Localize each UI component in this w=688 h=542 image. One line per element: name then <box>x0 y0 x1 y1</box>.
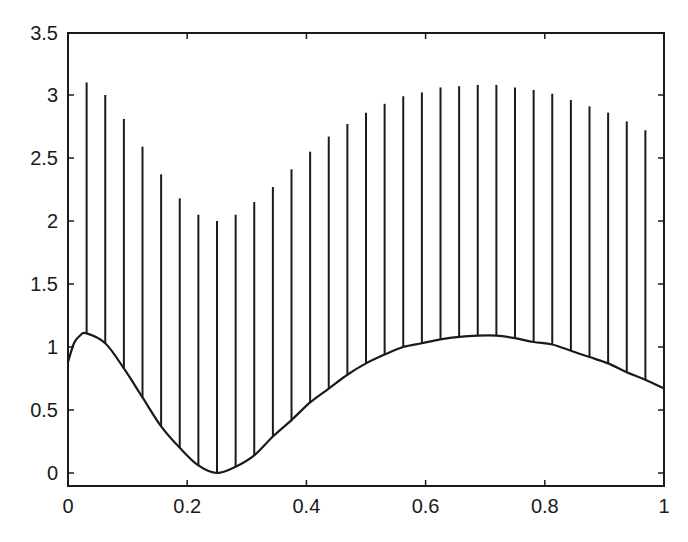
x-tick-label: 0.8 <box>531 495 559 517</box>
x-tick-label: 0 <box>62 495 73 517</box>
x-tick-label: 0.2 <box>173 495 201 517</box>
vertical-stems <box>87 82 646 473</box>
y-tick-label: 1.5 <box>30 273 58 295</box>
chart-plot: 00.20.40.60.81 00.511.522.533.5 <box>0 0 688 542</box>
y-tick-label: 3 <box>47 84 58 106</box>
y-tick-label: 2 <box>47 210 58 232</box>
y-tick-label: 3.5 <box>30 22 58 44</box>
y-tick-label: 0.5 <box>30 399 58 421</box>
y-tick-label: 0 <box>47 462 58 484</box>
x-tick-label: 1 <box>658 495 669 517</box>
y-axis-tick-labels: 00.511.522.533.5 <box>30 22 58 484</box>
x-tick-label: 0.6 <box>412 495 440 517</box>
y-tick-label: 1 <box>47 336 58 358</box>
y-tick-label: 2.5 <box>30 147 58 169</box>
x-tick-label: 0.4 <box>292 495 320 517</box>
x-axis-tick-labels: 00.20.40.60.81 <box>62 495 669 517</box>
